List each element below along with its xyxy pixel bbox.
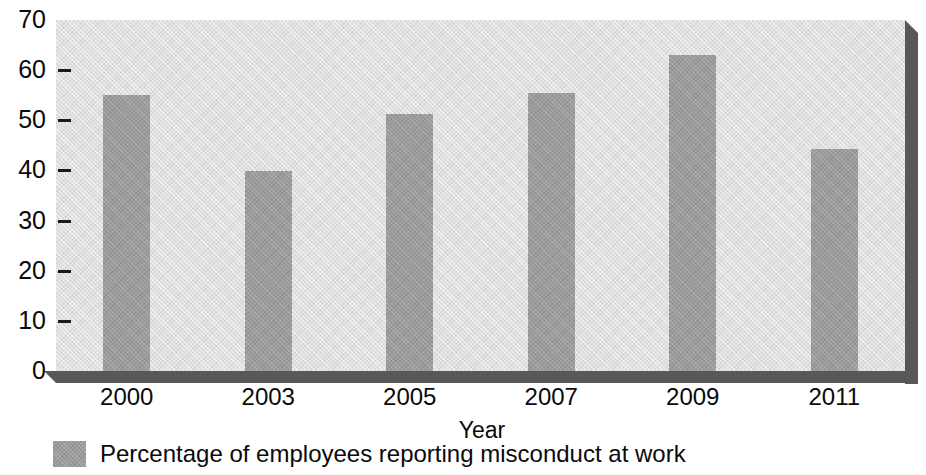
bar [386,114,433,371]
y-tick-label: 10 [0,308,46,333]
bar [245,171,292,371]
legend-swatch-icon [53,441,86,467]
legend: Percentage of employees reporting miscon… [53,441,686,467]
bar [811,149,858,371]
y-tick-label: 40 [0,157,46,182]
bar-chart: 010203040506070 200020032005200720092011… [0,0,926,475]
x-tick-label: 2011 [779,385,889,409]
plot-bevel-right-top [905,20,918,33]
y-tick-label: 20 [0,258,46,283]
x-tick-label: 2007 [496,385,606,409]
bar [669,55,716,371]
y-tick-label: 70 [0,7,46,32]
plot-bevel-right [905,33,918,384]
plot-bevel-bottom [56,371,905,383]
bar [103,95,150,371]
y-tick-label: 0 [0,358,46,383]
y-tick-label: 60 [0,57,46,82]
x-axis-title: Year [382,419,582,442]
y-tick-label: 30 [0,208,46,233]
x-tick-label: 2005 [355,385,465,409]
x-tick-label: 2009 [638,385,748,409]
plot-area [56,20,905,371]
bar [528,93,575,371]
x-tick-label: 2003 [213,385,323,409]
y-tick-label: 50 [0,107,46,132]
x-tick-label: 2000 [72,385,182,409]
legend-label: Percentage of employees reporting miscon… [100,442,686,466]
bars-layer [56,20,905,371]
plot-bevel-bottom-left [44,371,56,383]
